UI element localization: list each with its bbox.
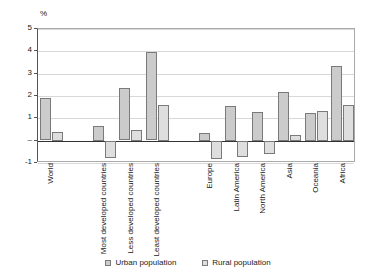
bar-rural	[211, 141, 222, 159]
bar-rural	[237, 141, 248, 157]
y-axis-tick-mark	[34, 73, 37, 74]
bar-urban	[199, 133, 210, 141]
bar-rural	[105, 141, 116, 158]
y-axis-tick-label: 2	[18, 91, 32, 99]
x-axis-label: Less developed countries	[126, 163, 135, 254]
bar-urban	[252, 112, 263, 141]
plot-area	[37, 28, 355, 162]
y-axis-tick-mark	[34, 140, 37, 141]
bar-rural	[158, 105, 169, 141]
x-axis-label: Africa	[338, 163, 347, 183]
bar-urban	[146, 52, 157, 140]
bar-urban	[331, 66, 342, 141]
bar-urban	[119, 88, 130, 140]
y-axis-tick-label: 4	[18, 46, 32, 54]
bar-rural	[317, 111, 328, 141]
x-axis-label: World	[46, 163, 55, 184]
x-axis-label: Asia	[285, 163, 294, 179]
x-axis-label: North America	[258, 163, 267, 214]
y-axis-tick-mark	[34, 117, 37, 118]
legend-swatch-icon-rural	[202, 260, 208, 266]
y-axis-tick-label: 3	[18, 69, 32, 77]
y-axis-tick-label: –	[18, 136, 32, 144]
bar-rural	[264, 141, 275, 154]
legend-swatch-icon-urban	[105, 260, 111, 266]
bar-urban	[225, 106, 236, 141]
bar-urban	[40, 98, 51, 140]
bar-chart: % 54321–-1 WorldMost developed countries…	[0, 0, 376, 280]
y-axis-tick-label: 5	[18, 24, 32, 32]
legend-label-urban: Urban population	[115, 258, 176, 267]
bar-rural	[290, 135, 301, 141]
y-axis-unit-label: %	[40, 9, 47, 18]
bar-rural	[343, 105, 354, 141]
legend-label-rural: Rural population	[212, 258, 270, 267]
x-axis-category-labels: WorldMost developed countriesLess develo…	[0, 163, 376, 253]
bar-urban	[93, 126, 104, 141]
bar-rural	[52, 132, 63, 141]
legend-item-urban-population: Urban population	[105, 258, 176, 267]
x-axis-label: Latin America	[232, 163, 241, 211]
y-axis-tick-label: 1	[18, 113, 32, 121]
x-axis-label: Most developed countries	[99, 163, 108, 254]
bar-urban	[305, 113, 316, 141]
bar-urban	[278, 92, 289, 141]
bars-layer	[38, 29, 354, 161]
x-axis-label: Least developed countries	[152, 163, 161, 256]
y-axis-tick-mark	[34, 50, 37, 51]
x-axis-label: Europe	[205, 163, 214, 189]
chart-legend: Urban population Rural population	[0, 258, 376, 267]
y-axis-tick-mark	[34, 95, 37, 96]
y-axis-tick-mark	[34, 28, 37, 29]
bar-rural	[131, 130, 142, 141]
legend-item-rural-population: Rural population	[202, 258, 270, 267]
x-axis-label: Oceania	[311, 163, 320, 193]
